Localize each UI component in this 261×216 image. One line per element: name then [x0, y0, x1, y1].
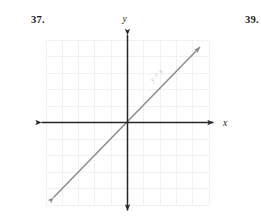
y-axis-label: y	[121, 14, 127, 24]
page-canvas: 37. 39.	[0, 0, 261, 216]
line-equation-label: y = x	[147, 66, 165, 84]
x-axis-label: x	[222, 118, 228, 128]
coordinate-plane-figure: y x y = x	[0, 0, 261, 216]
